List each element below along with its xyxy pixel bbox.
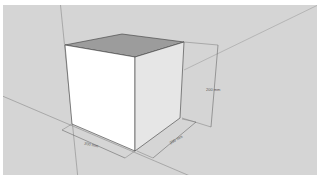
dimension-height-line bbox=[211, 45, 218, 127]
scene-canvas[interactable] bbox=[3, 5, 317, 175]
dimension-width-ext-right bbox=[125, 151, 135, 158]
axis-green bbox=[184, 5, 317, 70]
dimension-height-ext-top bbox=[184, 42, 218, 45]
dimension-height-label[interactable]: 200 mm bbox=[206, 88, 220, 92]
dimension-depth-ext-right bbox=[182, 119, 196, 122]
3d-viewport[interactable]: 200 mm 200 mm 200 mm bbox=[3, 5, 317, 175]
cube-side-face bbox=[135, 42, 184, 151]
dimension-height-ext-bottom bbox=[182, 118, 211, 127]
dimension-width-ext-left bbox=[62, 124, 72, 130]
cube-front-face bbox=[65, 45, 135, 151]
